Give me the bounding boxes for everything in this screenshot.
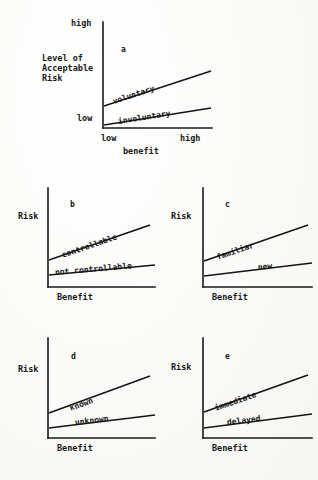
chart-panel-e: Risk Benefit e immediate delayed xyxy=(160,330,318,465)
panel-e-letter: e xyxy=(225,352,230,361)
panel-c-series-label-new: new xyxy=(257,261,272,272)
panel-a-ytick-high: high xyxy=(71,18,91,28)
panel-c-letter: c xyxy=(225,200,230,209)
panel-a-xtick-low: low xyxy=(101,133,116,143)
panel-b-x-axis-title: Benefit xyxy=(57,292,93,302)
panel-a-plot xyxy=(0,0,318,170)
panel-c-y-axis-title: Risk xyxy=(171,211,191,221)
chart-panel-b: Risk Benefit b controllable not controll… xyxy=(0,185,160,315)
chart-panel-d: Risk Benefit d known unknown xyxy=(0,330,160,465)
panel-a-y-axis-title-line3: Risk xyxy=(42,74,62,84)
panel-b-letter: b xyxy=(70,200,75,209)
panel-b-y-axis-title: Risk xyxy=(18,211,38,221)
panel-d-series-known-line xyxy=(49,376,150,413)
panel-a-letter: a xyxy=(121,45,126,54)
panel-e-y-axis-title: Risk xyxy=(171,362,191,372)
chart-panel-a: Level of Acceptable Risk high low low hi… xyxy=(0,0,318,170)
chart-panel-c: Risk Benefit c familiar new xyxy=(160,185,318,315)
panel-d-y-axis-title: Risk xyxy=(18,364,38,374)
panel-d-x-axis-title: Benefit xyxy=(57,443,93,453)
panel-a-ytick-low: low xyxy=(77,113,92,123)
panel-a-xtick-high: high xyxy=(180,133,200,143)
panel-c-x-axis-title: Benefit xyxy=(212,292,248,302)
panel-a-x-axis-title: benefit xyxy=(123,146,159,156)
panel-e-x-axis-title: Benefit xyxy=(212,443,248,453)
panel-d-letter: d xyxy=(71,352,76,361)
